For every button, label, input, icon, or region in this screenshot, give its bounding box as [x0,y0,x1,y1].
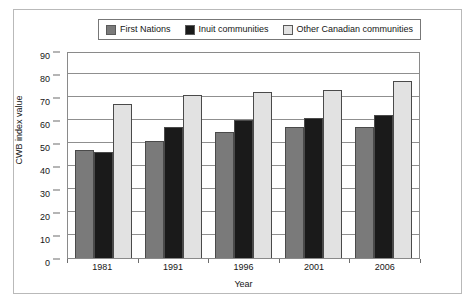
bar[interactable] [75,150,94,258]
bar-group [285,53,342,258]
bar-group [145,53,202,258]
bar-group [355,53,412,258]
bar-groups [68,53,419,258]
legend-swatch-icon [283,25,293,35]
bar[interactable] [285,127,304,258]
bar[interactable] [183,95,202,258]
y-tick-mark [53,75,60,76]
y-tick-mark [53,213,60,214]
legend-entry[interactable]: Inuit communities [185,25,269,35]
x-tick-label: 2006 [375,263,395,272]
x-tick-label: 1981 [92,263,112,272]
x-tick-label: 1996 [233,263,253,272]
legend-label: Inuit communities [199,25,269,34]
x-axis-ticks: 19811991199620012006 [67,263,420,277]
legend-entry[interactable]: First Nations [106,25,171,35]
x-tick-mark [420,259,421,263]
legend-swatch-icon [106,25,116,35]
legend-entry[interactable]: Other Canadian communities [283,25,414,35]
bar[interactable] [164,127,183,258]
bar[interactable] [323,90,342,258]
y-tick-mark [53,121,60,122]
bar[interactable] [94,152,113,258]
plot-wrapper [67,52,420,259]
x-tick-label: 2001 [304,263,324,272]
y-tick-mark [53,259,60,260]
y-tick-mark [53,52,60,53]
y-axis-ticks: 0102030405060708090 [0,52,60,259]
y-tick-mark [53,190,60,191]
bar[interactable] [113,104,132,258]
legend-label: Other Canadian communities [297,25,414,34]
y-tick-mark [53,98,60,99]
bar[interactable] [234,120,253,258]
y-tick-mark [53,236,60,237]
legend-label: First Nations [120,25,171,34]
y-axis-title: CWB index value [14,85,24,175]
bar[interactable] [145,141,164,258]
bar-group [75,53,132,258]
bar-group [215,53,272,258]
bar[interactable] [393,81,412,258]
bar[interactable] [215,132,234,259]
chart-figure: First NationsInuit communitiesOther Cana… [0,0,474,303]
x-axis-title: Year [67,279,420,289]
chart-legend: First NationsInuit communitiesOther Cana… [98,19,421,40]
y-tick-mark [53,144,60,145]
x-tick-label: 1991 [163,263,183,272]
bar[interactable] [304,118,323,258]
bar[interactable] [355,127,374,258]
y-tick-mark [53,167,60,168]
bar[interactable] [374,115,393,258]
plot-area [67,52,420,259]
bar[interactable] [253,92,272,258]
legend-swatch-icon [185,25,195,35]
